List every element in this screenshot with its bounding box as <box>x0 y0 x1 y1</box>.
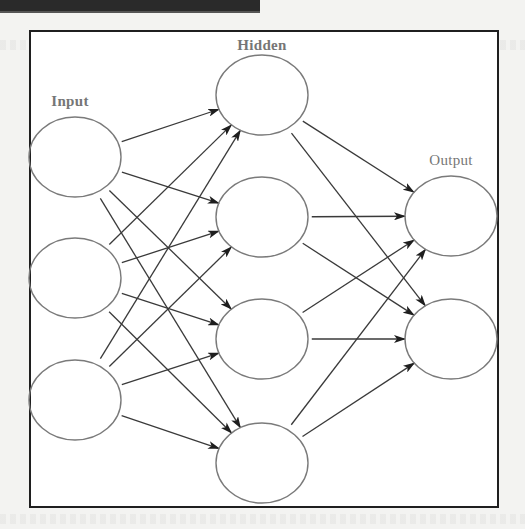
output-neuron <box>405 299 497 379</box>
connection-arrow <box>109 312 232 433</box>
connection-arrow <box>303 243 414 315</box>
connection-arrow <box>303 240 415 313</box>
connection-arrow <box>109 125 231 245</box>
connection-arrow <box>303 121 414 192</box>
connection-arrow <box>303 363 415 436</box>
output-layer-label: Output <box>429 152 472 169</box>
hidden-neuron <box>216 55 308 135</box>
connection-arrow <box>122 293 219 325</box>
input-neuron <box>29 117 121 197</box>
input-layer-label: Input <box>51 93 88 110</box>
input-neuron <box>29 238 121 318</box>
connection-edges <box>100 109 425 448</box>
connection-arrow <box>122 172 219 203</box>
network-graph <box>0 0 525 529</box>
connection-arrow <box>122 416 219 449</box>
hidden-neuron <box>216 423 308 503</box>
output-neuron <box>405 176 497 256</box>
connection-arrow <box>122 109 219 141</box>
hidden-neuron <box>216 299 308 379</box>
connection-arrow <box>109 190 231 309</box>
input-neuron <box>29 360 121 440</box>
neuron-nodes <box>29 55 497 503</box>
hidden-neuron <box>216 177 308 257</box>
connection-arrow <box>122 231 219 263</box>
hidden-layer-label: Hidden <box>237 37 286 54</box>
connection-arrow <box>109 247 231 367</box>
